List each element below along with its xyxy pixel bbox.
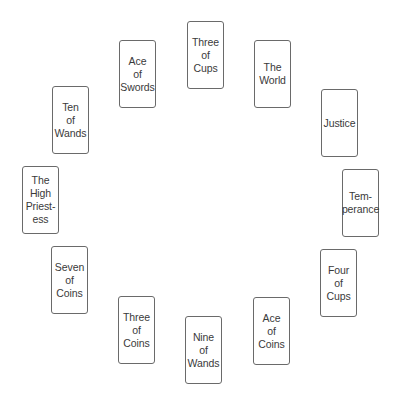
card-justice[interactable]: Justice [321, 89, 358, 157]
card-nine-of-wands[interactable]: Nine of Wands [185, 316, 222, 384]
card-label: The World [259, 61, 286, 87]
card-seven-of-coins[interactable]: Seven of Coins [51, 246, 88, 314]
card-ace-of-swords[interactable]: Ace of Swords [119, 40, 156, 108]
card-label: Seven of Coins [55, 261, 84, 300]
card-the-high-priestess[interactable]: The High Priest- ess [22, 166, 59, 234]
card-label: Tem- perance [342, 190, 379, 216]
card-the-world[interactable]: The World [254, 40, 291, 108]
card-label: Ace of Swords [120, 55, 154, 94]
card-temperance[interactable]: Tem- perance [342, 169, 379, 237]
card-label: Three of Cups [192, 36, 219, 75]
card-label: Three of Coins [123, 311, 150, 350]
card-four-of-cups[interactable]: Four of Cups [320, 249, 357, 317]
card-label: The High Priest- ess [26, 174, 56, 226]
tarot-spread-circle: Three of Cups The World Justice Tem- per… [0, 0, 405, 400]
card-three-of-coins[interactable]: Three of Coins [118, 296, 155, 364]
card-three-of-cups[interactable]: Three of Cups [187, 21, 224, 89]
card-label: Ace of Coins [258, 312, 284, 351]
card-ace-of-coins[interactable]: Ace of Coins [253, 297, 290, 365]
card-label: Justice [324, 117, 356, 130]
card-ten-of-wands[interactable]: Ten of Wands [52, 86, 89, 154]
card-label: Ten of Wands [55, 101, 87, 140]
card-label: Nine of Wands [188, 331, 220, 370]
card-label: Four of Cups [326, 264, 350, 303]
